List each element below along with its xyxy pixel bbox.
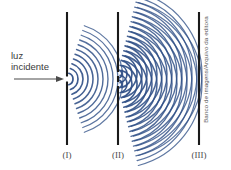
wavefront-arc [119, 80, 122, 88]
incident-light-arrow [14, 76, 64, 82]
barrier-label-i: (I) [53, 150, 81, 160]
barrier-label-iii: (III) [184, 150, 214, 160]
single-slit-source [69, 26, 123, 133]
incident-light-line2: incidente [11, 61, 49, 72]
barrier-label-ii: (II) [104, 150, 132, 160]
wavefront-arc [69, 73, 73, 84]
incident-light-line1: luz [11, 50, 49, 61]
wavefront-arc [136, 12, 192, 156]
wavefront-arc [70, 69, 78, 90]
diffraction-diagram: luz incidente (I) (II) (III) Banco de im… [0, 0, 231, 170]
wavefront-arc [136, 2, 192, 146]
image-credit: Banco de imagens/Arquivo da editora [202, 0, 209, 140]
diagram-canvas [0, 0, 231, 170]
arrow-head [56, 76, 64, 82]
incident-light-label: luz incidente [11, 50, 49, 72]
wavefront-arc [78, 45, 103, 113]
